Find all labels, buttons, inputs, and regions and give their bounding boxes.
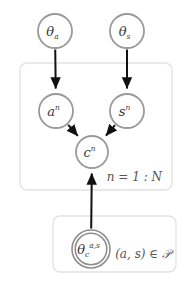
plate-label-plate_p: (a, s) ∈ 𝒫 [115, 247, 174, 261]
plate-diagram-svg: θaθsansncnθca,s n = 1 : N(a, s) ∈ 𝒫 [0, 0, 184, 281]
graphical-model-canvas: θaθsansncnθca,s n = 1 : N(a, s) ∈ 𝒫 [0, 0, 184, 281]
node-a_n[interactable]: an [39, 94, 73, 128]
edge-theta_c_as-to-c_n [91, 173, 92, 228]
node-theta_s[interactable]: θs [110, 14, 144, 48]
node-c_n[interactable]: cn [76, 136, 108, 168]
node-s_n[interactable]: sn [110, 94, 144, 128]
node-theta_a[interactable]: θa [38, 14, 72, 48]
plate-label-plate_n: n = 1 : N [107, 170, 163, 184]
node-theta_c_as[interactable]: θca,s [72, 230, 110, 268]
plate-plate_p [53, 216, 176, 272]
